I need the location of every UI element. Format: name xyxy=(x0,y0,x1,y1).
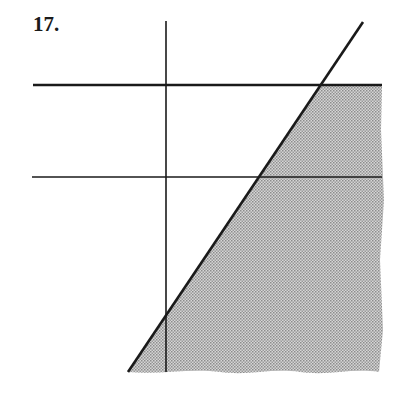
graph-figure xyxy=(0,0,410,398)
